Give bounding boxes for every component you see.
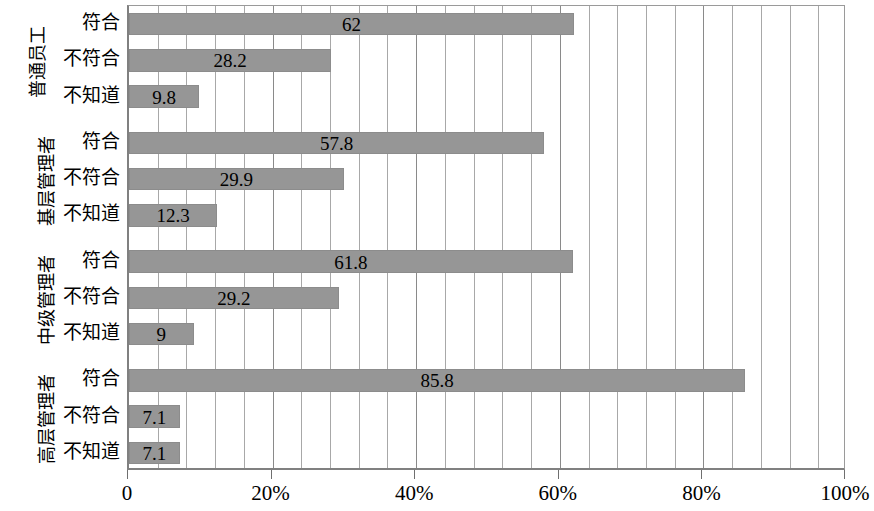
bar-value-label: 7.1 — [143, 443, 167, 462]
x-axis-labels: 020%40%60%80%100% — [127, 481, 845, 511]
category-label: 不知道 — [63, 86, 120, 105]
bar-value-label: 29.2 — [217, 288, 250, 307]
bar-value-label: 7.1 — [143, 407, 167, 426]
x-axis-tick-label: 20% — [251, 481, 290, 506]
category-label: 不知道 — [63, 323, 120, 342]
x-axis-tick — [414, 470, 415, 479]
x-axis-tick-label: 80% — [682, 481, 721, 506]
x-axis-tick — [127, 470, 128, 479]
bar-value-label: 9.8 — [152, 87, 176, 106]
x-axis-tick — [558, 470, 559, 479]
category-label: 不知道 — [63, 204, 120, 223]
group-label: 普通员工 — [0, 49, 30, 75]
x-axis-tick — [844, 470, 845, 479]
group-label: 高层管理者 — [0, 406, 30, 432]
bar-value-label: 12.3 — [157, 206, 190, 225]
category-label: 符合 — [82, 132, 120, 151]
group-axis: 普通员工基层管理者中级管理者高层管理者 — [0, 0, 30, 470]
x-axis-ticks — [127, 470, 845, 479]
bar-value-label: 28.2 — [214, 51, 247, 70]
x-axis-tick-label: 100% — [821, 481, 870, 506]
bar-value-label: 9 — [157, 325, 167, 344]
category-label: 不符合 — [63, 406, 120, 425]
bar-value-label: 62 — [342, 15, 361, 34]
category-label: 符合 — [82, 13, 120, 32]
bar-value-label: 85.8 — [420, 371, 453, 390]
bar-chart: 普通员工基层管理者中级管理者高层管理者 符合不符合不知道符合不符合不知道符合不符… — [0, 0, 874, 511]
category-axis: 符合不符合不知道符合不符合不知道符合不符合不知道符合不符合不知道 — [28, 5, 124, 470]
category-label: 符合 — [82, 369, 120, 388]
category-label: 不知道 — [63, 442, 120, 461]
bar-value-label: 29.9 — [220, 170, 253, 189]
category-label: 符合 — [82, 251, 120, 270]
category-label: 不符合 — [63, 287, 120, 306]
x-axis-tick-label: 40% — [395, 481, 434, 506]
bar-series: 6228.29.857.829.912.361.829.2985.87.17.1 — [129, 6, 844, 468]
category-label: 不符合 — [63, 49, 120, 68]
category-label: 不符合 — [63, 168, 120, 187]
x-axis-tick-label: 0 — [122, 481, 133, 506]
x-axis-tick — [701, 470, 702, 479]
bar-value-label: 57.8 — [320, 133, 353, 152]
plot-area: 6228.29.857.829.912.361.829.2985.87.17.1 — [127, 5, 845, 470]
x-axis-tick-label: 60% — [539, 481, 578, 506]
group-label: 中级管理者 — [0, 287, 30, 313]
x-axis-tick — [271, 470, 272, 479]
bar-value-label: 61.8 — [334, 252, 367, 271]
group-label: 基层管理者 — [0, 168, 30, 194]
